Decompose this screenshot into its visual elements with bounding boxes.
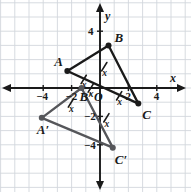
x-tick-label-2: 2 xyxy=(125,91,131,102)
svg-text:x: x xyxy=(116,97,122,107)
y-tick-label-4: 4 xyxy=(88,26,94,37)
vertex-label-b-prime: B′ xyxy=(80,90,92,103)
svg-text:x: x xyxy=(68,104,74,114)
axis-label-y: y xyxy=(105,10,110,22)
vertex-label-b: B xyxy=(115,31,124,44)
x-tick-label-minus-2: −2 xyxy=(66,91,78,102)
svg-text:x: x xyxy=(103,119,109,129)
y-tick-label-minus-2: −2 xyxy=(84,111,96,122)
coordinate-plane-figure: xxxxxx A B C A′ B′ C′ x y O −4 −2 2 4 4 … xyxy=(0,0,191,192)
axis-label-x: x xyxy=(170,72,176,84)
vertex-label-c-prime: C′ xyxy=(115,153,127,166)
svg-text:x: x xyxy=(101,68,107,78)
x-tick-label-4: 4 xyxy=(154,91,160,102)
vertex-label-a: A xyxy=(54,55,63,68)
vertex-label-c: C xyxy=(142,108,151,121)
vertex-label-a-prime: A′ xyxy=(37,123,49,136)
y-tick-label-minus-4: −4 xyxy=(84,140,96,151)
x-tick-label-minus-4: −4 xyxy=(36,91,48,102)
origin-label: O xyxy=(94,91,103,103)
